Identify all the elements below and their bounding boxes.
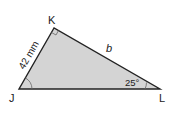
triangle-diagram: K J L 42 mm b 25° bbox=[0, 0, 174, 114]
vertex-label-k: K bbox=[48, 14, 56, 26]
vertex-label-j: J bbox=[9, 92, 15, 104]
side-label-kl: b bbox=[106, 42, 112, 54]
angle-label-l: 25° bbox=[125, 77, 140, 88]
vertex-label-l: L bbox=[159, 92, 165, 104]
